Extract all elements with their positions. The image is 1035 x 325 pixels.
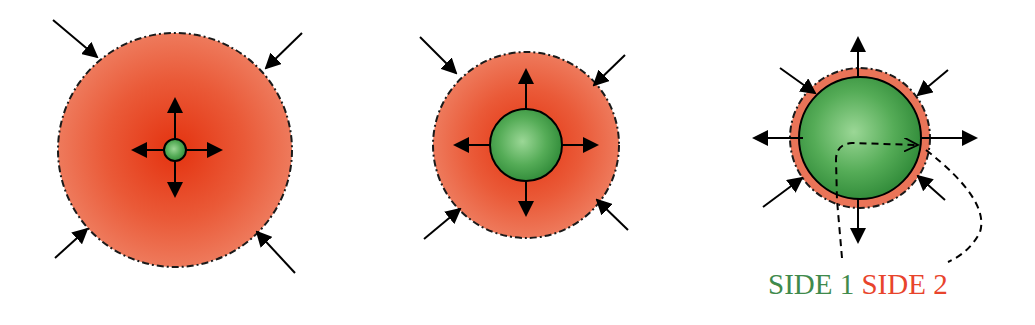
side2-dashed-path [926,150,981,262]
side-labels: SIDE 1 SIDE 2 [768,268,948,301]
inner-core [164,139,186,161]
inner-core [490,109,562,181]
side1-label: SIDE 1 [768,268,854,300]
side2-label: SIDE 2 [861,268,947,300]
stage-1-panel [53,20,302,273]
stage-3-panel [754,38,981,262]
inner-core [799,77,921,199]
stage-2-panel [420,37,628,239]
